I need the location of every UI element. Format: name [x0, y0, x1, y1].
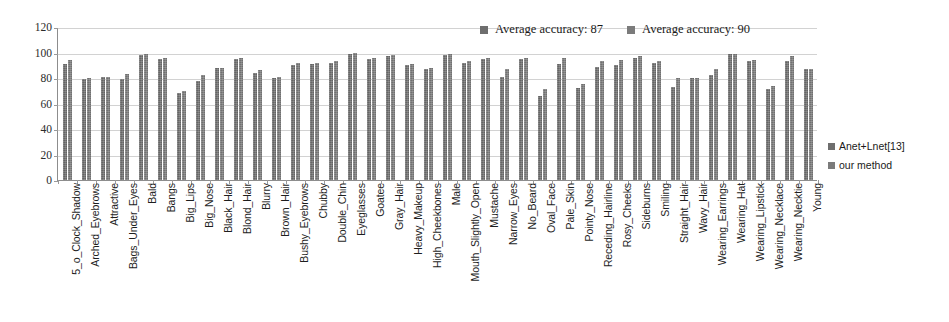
x-axis-category-label: No_Beard: [527, 183, 537, 229]
bar-group: [101, 28, 109, 180]
bar-group: [196, 28, 204, 180]
bar-group: [576, 28, 584, 180]
plot-area: [57, 28, 817, 181]
bar: [196, 81, 200, 180]
bar: [87, 78, 91, 180]
y-axis-tick-label: 80: [6, 73, 52, 84]
bar: [405, 65, 409, 180]
bar: [348, 54, 352, 180]
x-axis-category-label: Bags_Under_Eyes: [128, 183, 138, 269]
x-axis-category-label: Double_Chin: [337, 183, 347, 243]
x-axis-category-label: Goatee: [375, 183, 385, 217]
bar: [372, 58, 376, 180]
bar: [785, 61, 789, 180]
x-axis-category-label: Bald: [147, 183, 157, 204]
x-axis-category-label: Bangs: [166, 183, 176, 212]
bar: [728, 54, 732, 180]
x-axis-category-label: Smiling: [660, 183, 670, 217]
bar-group: [747, 28, 755, 180]
bar-group: [120, 28, 128, 180]
bar: [695, 78, 699, 180]
y-axis-tick: [54, 156, 58, 157]
bar-group: [291, 28, 299, 180]
bar: [68, 60, 72, 180]
bar: [486, 58, 490, 180]
bar-group: [766, 28, 774, 180]
x-axis-category-label: Big_Lips: [185, 183, 195, 222]
bar: [310, 64, 314, 180]
bar: [101, 77, 105, 180]
bar: [676, 78, 680, 180]
x-axis-category-label: Receding_Hairline: [603, 183, 613, 267]
bar: [771, 86, 775, 180]
legend-entry: Average accuracy: 87: [480, 22, 603, 37]
y-axis-tick: [54, 105, 58, 106]
bar-group: [538, 28, 546, 180]
bar: [201, 75, 205, 180]
bar: [543, 89, 547, 180]
bar: [272, 78, 276, 180]
x-axis-category-label: Bushy_Eyebrows: [299, 183, 309, 263]
y-axis-tick: [54, 54, 58, 55]
y-axis-tick: [54, 130, 58, 131]
bar-group: [367, 28, 375, 180]
bar-group: [386, 28, 394, 180]
bar: [277, 77, 281, 180]
bar-group: [177, 28, 185, 180]
bar-group: [690, 28, 698, 180]
x-axis-category-label: Blurry: [261, 183, 271, 210]
bar: [562, 58, 566, 180]
bar: [215, 68, 219, 180]
bar: [391, 55, 395, 180]
bar-group: [158, 28, 166, 180]
bar: [258, 70, 262, 180]
bar: [733, 54, 737, 180]
y-axis-tick-label: 120: [6, 22, 52, 33]
bar-chart: 120100806040200 5_o_Clock_ShadowArched_E…: [0, 0, 949, 322]
bar: [234, 59, 238, 180]
bar-group: [481, 28, 489, 180]
x-axis-category-label: Eyeglasses: [356, 183, 366, 236]
x-axis-labels: 5_o_Clock_ShadowArched_EyebrowsAttractiv…: [57, 183, 817, 322]
y-axis-tick-label: 40: [6, 124, 52, 135]
bar: [106, 77, 110, 180]
bar: [63, 64, 67, 180]
x-axis-category-label: Attractive: [109, 183, 119, 226]
bar-group: [633, 28, 641, 180]
bar-group: [671, 28, 679, 180]
legend-swatch-icon: [627, 26, 635, 34]
x-axis-category-label: Gray_Hair: [394, 183, 404, 230]
x-axis-category-label: Wavy_Hair: [698, 183, 708, 233]
bar: [139, 55, 143, 180]
y-axis-tick-label: 60: [6, 99, 52, 110]
bar: [315, 63, 319, 180]
x-axis-category-label: Pale_Skin: [565, 183, 575, 229]
bar-group: [728, 28, 736, 180]
bar: [671, 87, 675, 180]
bar: [652, 63, 656, 180]
x-axis-category-label: Straight_Hair: [679, 183, 689, 243]
bar: [595, 67, 599, 180]
gridline: [58, 130, 817, 131]
y-axis-tick: [54, 28, 58, 29]
bar: [709, 75, 713, 180]
bar-group: [462, 28, 470, 180]
y-axis-tick-label: 20: [6, 150, 52, 161]
bar-group: [614, 28, 622, 180]
bar: [424, 69, 428, 180]
average-accuracy-legend: Average accuracy: 87Average accuracy: 90: [480, 22, 750, 37]
x-axis-category-label: 5_o_Clock_Shadow: [71, 183, 81, 275]
bar: [581, 84, 585, 180]
bar: [790, 56, 794, 180]
x-axis-category-label: Big_Nose: [204, 183, 214, 228]
bar: [500, 77, 504, 180]
bar: [747, 61, 751, 180]
bar: [334, 61, 338, 180]
bar-group: [139, 28, 147, 180]
x-axis-category-label: Wearing_Hat: [736, 183, 746, 243]
bar: [163, 58, 167, 180]
legend-swatch-icon: [480, 26, 488, 34]
x-axis-category-label: Male: [451, 183, 461, 205]
x-axis-category-label: Narrow_Eyes: [508, 183, 518, 245]
bar: [353, 53, 357, 181]
